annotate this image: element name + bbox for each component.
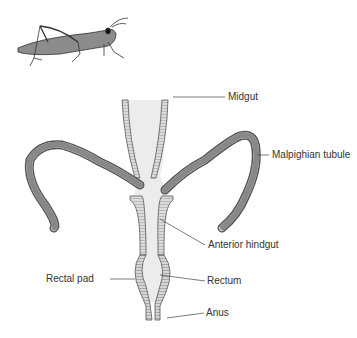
label-anus: Anus xyxy=(206,307,229,319)
grasshopper-icon xyxy=(18,18,128,66)
hindgut-diagram xyxy=(0,0,357,338)
label-anterior-hindgut: Anterior hindgut xyxy=(208,239,279,251)
label-rectum: Rectum xyxy=(207,275,241,287)
label-rectal-pad: Rectal pad xyxy=(46,273,94,285)
label-midgut: Midgut xyxy=(228,91,258,103)
label-malpighian-tubule: Malpighian tubule xyxy=(272,149,350,161)
hindgut-wall-left xyxy=(130,196,146,255)
malpighian-tubule-left xyxy=(29,145,140,228)
malpighian-tubule-right xyxy=(165,135,256,228)
